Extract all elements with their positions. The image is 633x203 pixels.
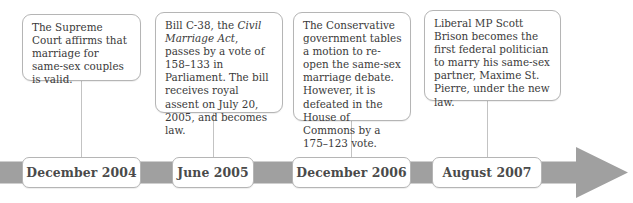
event-text-dec-2004: The Supreme Court affirms that marriage …	[32, 21, 127, 85]
timeline-figure: The Supreme Court affirms that marriage …	[0, 0, 633, 203]
date-label-jun-2005: June 2005	[177, 165, 248, 180]
event-text-dec-2006: The Conservative government tables a mot…	[303, 19, 402, 149]
event-box-aug-2007: Liberal MP Scott Brison becomes the firs…	[424, 10, 561, 101]
date-label-aug-2007: August 2007	[443, 165, 532, 180]
date-label-dec-2004: December 2004	[26, 165, 136, 180]
event-box-dec-2006: The Conservative government tables a mot…	[293, 12, 411, 121]
date-marker-aug-2007[interactable]: August 2007	[432, 157, 542, 188]
event-text-aug-2007: Liberal MP Scott Brison becomes the firs…	[434, 17, 550, 108]
connector-line-dec-2004	[81, 80, 82, 159]
date-marker-dec-2004[interactable]: December 2004	[22, 157, 141, 188]
date-marker-jun-2005[interactable]: June 2005	[172, 157, 254, 188]
date-label-dec-2006: December 2006	[296, 165, 406, 180]
event-box-jun-2005: Bill C-38, the Civil Marriage Act, passe…	[155, 12, 283, 113]
event-box-dec-2004: The Supreme Court affirms that marriage …	[22, 14, 141, 81]
date-marker-dec-2006[interactable]: December 2006	[292, 157, 411, 188]
event-text-jun-2005: Bill C-38, the Civil Marriage Act, passe…	[165, 19, 269, 136]
connector-line-aug-2007	[487, 100, 488, 159]
